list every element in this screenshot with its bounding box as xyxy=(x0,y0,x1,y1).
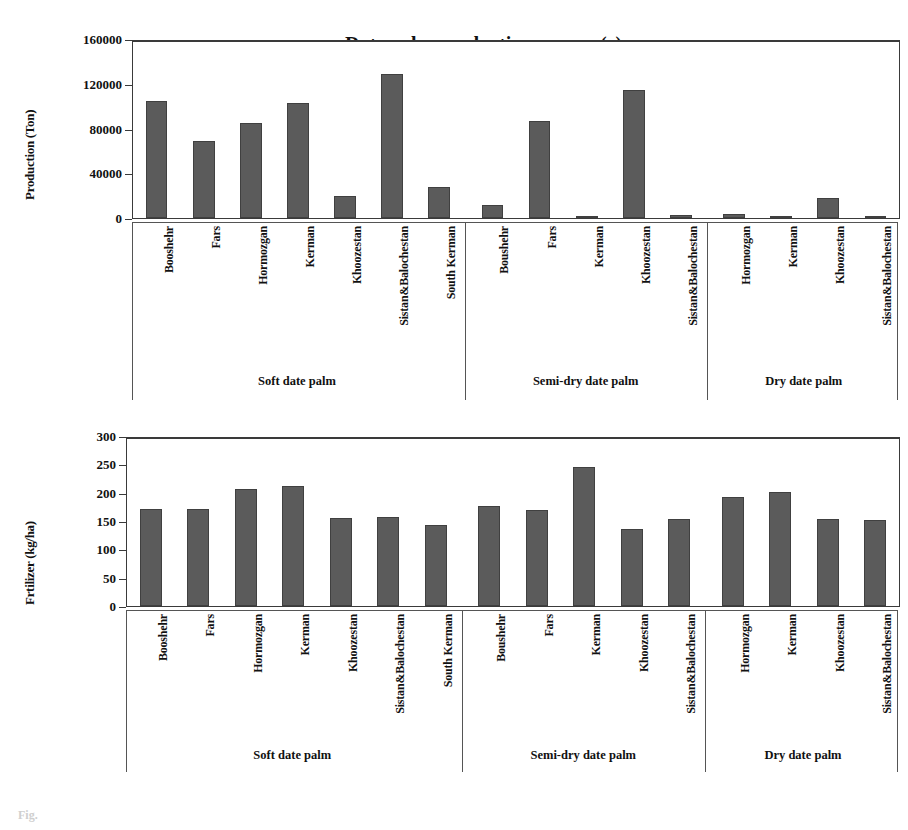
group-label: Soft date palm xyxy=(258,374,336,389)
bar xyxy=(722,497,744,606)
y-tick-mark xyxy=(119,579,126,580)
bar xyxy=(287,103,309,218)
bar xyxy=(187,509,209,606)
y-tick-mark xyxy=(119,522,126,523)
bar xyxy=(526,510,548,606)
bar xyxy=(623,90,645,218)
bar xyxy=(723,214,745,218)
group-label: Soft date palm xyxy=(253,748,331,763)
bar xyxy=(334,196,356,218)
group-separator xyxy=(897,222,898,400)
bar xyxy=(529,121,551,218)
group-separator xyxy=(465,222,466,400)
y-tick-mark xyxy=(119,437,126,438)
bar xyxy=(478,506,500,606)
bars-fertilizer xyxy=(127,439,899,606)
bar xyxy=(381,74,403,218)
bar xyxy=(282,486,304,606)
bar xyxy=(482,205,504,218)
group-label: Semi-dry date palm xyxy=(533,374,639,389)
group-separator xyxy=(126,610,127,772)
bars-production xyxy=(133,42,899,218)
bar xyxy=(670,215,692,218)
group-separator xyxy=(705,610,706,772)
y-tick-label: 0 xyxy=(116,211,123,227)
bar xyxy=(817,519,839,606)
bar xyxy=(668,519,690,606)
group-separator xyxy=(132,222,133,400)
y-tick-label: 200 xyxy=(97,486,117,502)
y-tick-label: 120000 xyxy=(83,77,122,93)
bar xyxy=(769,492,791,606)
bar xyxy=(576,216,598,218)
y-tick-label: 150 xyxy=(97,514,117,530)
bar xyxy=(146,101,168,218)
y-tick-label: 80000 xyxy=(90,122,123,138)
group-axis-production: Soft date palmSemi-dry date palmDry date… xyxy=(132,222,900,402)
bar xyxy=(428,187,450,218)
y-axis-ticks-fertilizer: 050100150200250300 xyxy=(60,415,126,830)
group-axis-baseline xyxy=(132,222,898,223)
y-tick-label: 100 xyxy=(97,542,117,558)
bar xyxy=(770,216,792,218)
bar xyxy=(377,517,399,606)
y-tick-mark xyxy=(125,40,132,41)
y-tick-label: 300 xyxy=(97,429,117,445)
bar xyxy=(864,520,886,606)
bar xyxy=(330,518,352,606)
y-tick-label: 0 xyxy=(110,599,117,615)
y-tick-mark xyxy=(119,550,126,551)
bar xyxy=(865,216,887,218)
panel-production: Production (Ton) Date palm production (c… xyxy=(0,0,908,415)
y-tick-mark xyxy=(125,174,132,175)
y-tick-mark xyxy=(125,219,132,220)
group-separator xyxy=(897,610,898,772)
group-label: Semi-dry date palm xyxy=(530,748,636,763)
bar xyxy=(573,467,595,606)
bar xyxy=(240,123,262,218)
y-tick-mark xyxy=(125,85,132,86)
y-axis-title-fertilizer: Frtilizer (kg/ha) xyxy=(22,521,38,605)
group-separator xyxy=(462,610,463,772)
plot-area-fertilizer xyxy=(126,437,900,607)
group-label: Dry date palm xyxy=(764,748,841,763)
group-axis-fertilizer: Soft date palmSemi-dry date palmDry date… xyxy=(126,610,900,780)
bar xyxy=(817,198,839,218)
bar xyxy=(235,489,257,606)
figure-panels-c-and-d: Production (Ton) Date palm production (c… xyxy=(0,0,908,830)
group-label: Dry date palm xyxy=(765,374,842,389)
bar xyxy=(140,509,162,606)
y-axis-title-production: Production (Ton) xyxy=(22,110,38,200)
y-tick-mark xyxy=(119,465,126,466)
plot-area-production xyxy=(132,40,900,219)
group-axis-baseline xyxy=(126,610,898,611)
y-axis-ticks-production: 04000080000120000160000 xyxy=(60,0,132,415)
y-tick-label: 50 xyxy=(103,571,116,587)
group-separator xyxy=(707,222,708,400)
bar xyxy=(425,525,447,606)
y-tick-label: 160000 xyxy=(83,32,122,48)
y-tick-mark xyxy=(125,130,132,131)
bar xyxy=(621,529,643,606)
bar xyxy=(193,141,215,218)
y-tick-label: 40000 xyxy=(90,166,123,182)
figure-caption-fragment: Fig. xyxy=(18,808,38,823)
y-tick-mark xyxy=(119,494,126,495)
panel-fertilizer: Frtilizer (kg/ha) Date palm chemical fer… xyxy=(0,415,908,830)
y-tick-label: 250 xyxy=(97,457,117,473)
y-tick-mark xyxy=(119,607,126,608)
